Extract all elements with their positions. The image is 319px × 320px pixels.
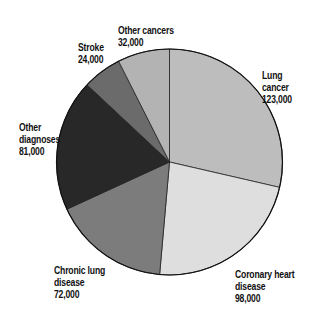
label-lung-cancer-value: 123,000 <box>262 93 309 105</box>
label-chronic-lung-name-1: Chronic lung <box>54 264 105 276</box>
label-coronary-name-2: disease <box>235 280 294 292</box>
label-chronic-lung-value: 72,000 <box>54 288 105 300</box>
label-other-diagnoses-name-2: diagnoses <box>19 133 60 145</box>
label-coronary-value: 98,000 <box>235 292 294 304</box>
label-stroke-value: 24,000 <box>78 53 104 65</box>
label-other-cancers-value: 32,000 <box>118 36 174 48</box>
label-chronic-lung-disease: Chronic lung disease 72,000 <box>54 264 105 300</box>
label-other-diagnoses-value: 81,000 <box>19 145 60 157</box>
label-other-diagnoses: Other diagnoses 81,000 <box>19 121 60 157</box>
label-chronic-lung-name-2: disease <box>54 276 105 288</box>
label-stroke: Stroke 24,000 <box>78 41 104 65</box>
pie-slices <box>57 49 283 275</box>
label-other-cancers-name: Other cancers <box>118 24 174 36</box>
label-stroke-name: Stroke <box>78 41 104 53</box>
label-lung-cancer-name: Lung cancer <box>262 69 309 93</box>
label-coronary-heart-disease: Coronary heart disease 98,000 <box>235 268 294 304</box>
label-coronary-name-1: Coronary heart <box>235 268 294 280</box>
label-lung-cancer: Lung cancer 123,000 <box>262 69 309 105</box>
label-other-diagnoses-name-1: Other <box>19 121 60 133</box>
label-other-cancers: Other cancers 32,000 <box>118 24 174 48</box>
